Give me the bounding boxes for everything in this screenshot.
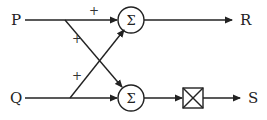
sigma-icon: Σ (126, 91, 135, 106)
output-label-s: S (248, 89, 258, 107)
sigma-icon: Σ (126, 13, 135, 28)
multiplier-block (183, 88, 203, 108)
output-label-r: R (240, 11, 252, 29)
input-label-p: P (11, 11, 21, 29)
sign-q-top: + (72, 69, 82, 83)
sign-p-top: + (89, 4, 99, 18)
input-label-q: Q (10, 89, 22, 107)
summer-bottom: Σ (118, 85, 144, 111)
summer-top: Σ (118, 7, 144, 33)
sign-p-bottom: + (72, 32, 82, 46)
diagram-canvas: P Q + + + Σ Σ R S (0, 0, 267, 120)
